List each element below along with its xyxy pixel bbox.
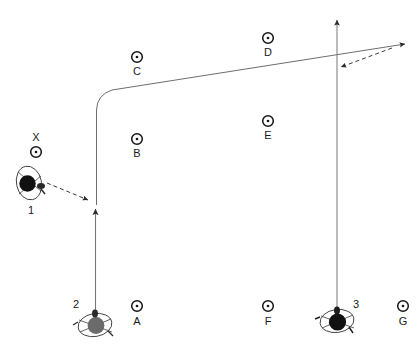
player-3-head bbox=[329, 313, 346, 330]
player-1-stick bbox=[41, 189, 45, 194]
cone-label-F: F bbox=[258, 316, 278, 327]
player-figure-2[interactable] bbox=[73, 310, 114, 340]
player-1-head bbox=[19, 175, 35, 191]
player-3-pass-path bbox=[341, 48, 392, 67]
player-label-3: 3 bbox=[346, 299, 366, 310]
cone-marker-A[interactable] bbox=[132, 301, 143, 312]
cone-marker-D[interactable] bbox=[263, 33, 274, 44]
player-1-pass-segment bbox=[47, 183, 88, 200]
player-2-stick-2 bbox=[73, 322, 78, 325]
player-2-run-path bbox=[96, 44, 406, 314]
cone-markers-group bbox=[31, 33, 409, 312]
cone-marker-F[interactable] bbox=[263, 301, 274, 312]
cone-marker-G[interactable] bbox=[398, 301, 409, 312]
cone-label-D: D bbox=[258, 47, 278, 58]
player-2-head bbox=[88, 317, 105, 334]
player-3-stick-2 bbox=[315, 317, 320, 319]
player-label-1: 1 bbox=[21, 205, 41, 216]
player-3-pass-segment bbox=[341, 48, 392, 67]
cone-marker-C[interactable] bbox=[132, 52, 143, 63]
cone-label-A: A bbox=[127, 316, 147, 327]
player-figure-1[interactable] bbox=[13, 164, 45, 202]
player-3-hand bbox=[334, 307, 340, 315]
diagram-canvas: X C D B E A F G 1 2 3 bbox=[0, 0, 419, 353]
player-2-hand bbox=[92, 310, 98, 318]
player-figure-3[interactable] bbox=[315, 307, 355, 335]
player-label-2: 2 bbox=[66, 299, 86, 310]
cone-marker-E[interactable] bbox=[263, 116, 274, 127]
player-1-hand bbox=[37, 183, 45, 189]
player-1-pass-path bbox=[47, 183, 88, 200]
cone-label-E: E bbox=[258, 130, 278, 141]
cone-marker-B[interactable] bbox=[132, 134, 143, 145]
cone-label-G: G bbox=[393, 316, 413, 327]
player-3-stick bbox=[349, 327, 353, 333]
cone-label-X: X bbox=[26, 132, 46, 143]
cone-label-C: C bbox=[127, 66, 147, 77]
cone-label-B: B bbox=[127, 148, 147, 159]
cone-marker-X[interactable] bbox=[31, 147, 42, 158]
